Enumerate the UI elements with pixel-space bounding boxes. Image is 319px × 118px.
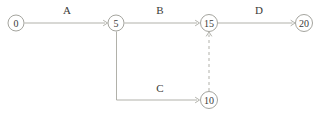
edge-dummy-dashed bbox=[206, 32, 211, 91]
node-15-label: 15 bbox=[204, 18, 214, 29]
diagram-canvas: 0 5 15 20 10 A B D C bbox=[0, 0, 319, 118]
node-0[interactable]: 0 bbox=[8, 15, 24, 31]
edge-label-a: A bbox=[63, 4, 71, 16]
node-0-label: 0 bbox=[14, 18, 19, 29]
edge-b bbox=[125, 20, 200, 25]
node-10[interactable]: 10 bbox=[201, 92, 218, 109]
network-diagram-svg: 0 5 15 20 10 A B D C bbox=[0, 0, 319, 118]
edge-d bbox=[218, 20, 295, 25]
node-15[interactable]: 15 bbox=[201, 15, 218, 32]
edge-label-b: B bbox=[156, 4, 163, 16]
node-20[interactable]: 20 bbox=[296, 15, 313, 32]
node-5-label: 5 bbox=[114, 18, 119, 29]
edge-a bbox=[25, 20, 108, 25]
edge-label-d: D bbox=[255, 4, 263, 16]
edge-label-c: C bbox=[156, 82, 163, 94]
node-5[interactable]: 5 bbox=[108, 15, 124, 31]
node-10-label: 10 bbox=[204, 95, 214, 106]
node-20-label: 20 bbox=[299, 18, 309, 29]
